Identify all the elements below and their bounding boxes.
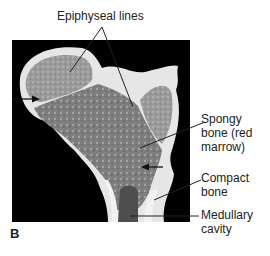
panel-letter: B: [10, 226, 19, 241]
label-compact-bone: Compact bone: [201, 171, 249, 199]
label-epiphyseal-lines: Epiphyseal lines: [57, 9, 144, 23]
bone-section-figure: Epiphyseal lines Spongy bone (red marrow…: [0, 0, 270, 256]
label-spongy-bone: Spongy bone (red marrow): [201, 112, 252, 154]
label-medullary-cavity: Medullary cavity: [201, 208, 253, 236]
